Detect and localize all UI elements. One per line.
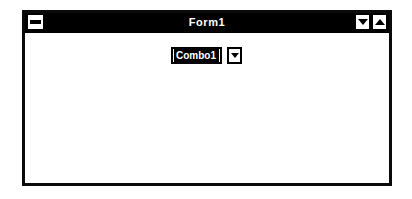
- window-title: Form1: [189, 17, 226, 28]
- system-menu-button[interactable]: [27, 14, 44, 30]
- minimize-bar-icon: [30, 20, 41, 24]
- combo-box-selected-value: Combo1: [174, 49, 219, 63]
- title-bar-buttons: [355, 14, 387, 30]
- triangle-down-icon: [231, 53, 239, 58]
- title-bar[interactable]: Form1: [25, 13, 389, 33]
- triangle-down-icon: [358, 19, 368, 25]
- minimize-button[interactable]: [355, 14, 370, 30]
- combo-box-field[interactable]: Combo1: [171, 47, 222, 64]
- form-client-area: Combo1: [25, 33, 389, 183]
- maximize-button[interactable]: [372, 14, 387, 30]
- triangle-up-icon: [375, 19, 385, 25]
- combo-box-dropdown-button[interactable]: [227, 47, 242, 64]
- combo-box-control: Combo1: [171, 47, 242, 64]
- form-window: Form1 Combo1: [22, 10, 392, 186]
